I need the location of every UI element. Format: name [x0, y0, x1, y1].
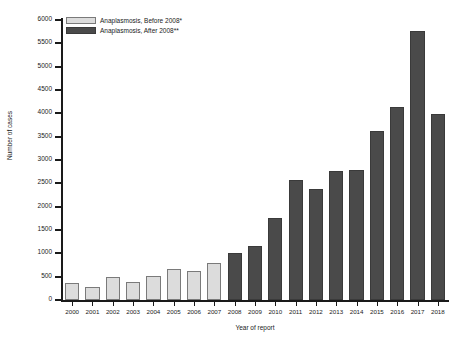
- x-axis-tick: [397, 302, 398, 306]
- legend-label: Anaplasmosis, After 2008**: [100, 27, 179, 34]
- x-axis-tick: [275, 302, 276, 306]
- y-axis-tick-label-text: 1500: [12, 226, 52, 233]
- x-axis-tick: [235, 302, 236, 306]
- y-axis-tick-label-text: 6000: [12, 16, 52, 23]
- y-axis-tick: [55, 42, 62, 44]
- y-axis-tick-label-text: 2500: [12, 179, 52, 186]
- bar-2010: [268, 218, 282, 300]
- y-axis-tick: [55, 136, 62, 138]
- bar-2007: [207, 263, 221, 300]
- y-axis-tick-label: 3500: [8, 133, 52, 140]
- y-axis-tick: [55, 112, 62, 114]
- y-axis-tick: [55, 252, 62, 254]
- x-axis-tick-label-2018: 2018: [423, 308, 453, 315]
- y-axis-tick: [55, 229, 62, 231]
- y-axis-tick-label-text: 1000: [12, 249, 52, 256]
- y-axis-tick-label: 6000: [8, 16, 52, 23]
- y-axis-tick: [55, 159, 62, 161]
- x-axis-tick: [113, 302, 114, 306]
- x-axis-tick: [357, 302, 358, 306]
- y-axis-tick: [55, 89, 62, 91]
- bar-2005: [167, 269, 181, 300]
- bar-2004: [146, 276, 160, 300]
- y-axis-tick-label: 1500: [8, 226, 52, 233]
- legend-item: Anaplasmosis, Before 2008*: [66, 16, 182, 24]
- x-axis-tick: [92, 302, 93, 306]
- x-axis-tick: [174, 302, 175, 306]
- y-axis-tick-label-text: 4000: [12, 109, 52, 116]
- x-axis-tick: [255, 302, 256, 306]
- y-axis-tick: [55, 182, 62, 184]
- x-axis-tick: [377, 302, 378, 306]
- bar-2001: [85, 287, 99, 300]
- plot-area: [62, 20, 448, 300]
- y-axis-tick-label-text: 3000: [12, 156, 52, 163]
- y-axis-tick-label-text: 4500: [12, 86, 52, 93]
- y-axis-tick-label: 0: [8, 296, 52, 303]
- y-axis-tick: [55, 299, 62, 301]
- x-axis-title: Year of report: [62, 324, 448, 331]
- bar-2008: [228, 253, 242, 300]
- y-axis-tick-label: 500: [8, 273, 52, 280]
- y-axis-tick-label-text: 3500: [12, 133, 52, 140]
- x-axis-tick: [438, 302, 439, 306]
- bar-2014: [349, 170, 363, 300]
- bar-2018: [431, 114, 445, 300]
- x-axis-tick: [133, 302, 134, 306]
- x-axis-tick: [296, 302, 297, 306]
- bar-2003: [126, 282, 140, 300]
- y-axis-tick-label-text: 500: [12, 273, 52, 280]
- bar-2006: [187, 271, 201, 300]
- bar-2002: [106, 277, 120, 300]
- y-axis-tick-label: 1000: [8, 249, 52, 256]
- x-axis-tick: [194, 302, 195, 306]
- y-axis-tick-label-text: 0: [12, 296, 52, 303]
- x-axis-tick: [153, 302, 154, 306]
- bar-group: [62, 20, 448, 300]
- x-axis-tick: [214, 302, 215, 306]
- bar-2016: [390, 107, 404, 300]
- x-axis-tick: [72, 302, 73, 306]
- bar-2011: [289, 180, 303, 300]
- bar-2009: [248, 246, 262, 300]
- x-axis-tick: [336, 302, 337, 306]
- y-axis-tick-label-text: 5500: [12, 39, 52, 46]
- bar-2017: [410, 31, 424, 300]
- bar-2000: [65, 283, 79, 300]
- legend-label: Anaplasmosis, Before 2008*: [100, 17, 182, 24]
- y-axis-tick: [55, 276, 62, 278]
- chart-legend: Anaplasmosis, Before 2008*Anaplasmosis, …: [66, 16, 182, 34]
- y-axis-tick: [55, 66, 62, 68]
- bar-2012: [309, 189, 323, 300]
- y-axis-tick-label: 3000: [8, 156, 52, 163]
- y-axis-tick: [55, 206, 62, 208]
- y-axis-tick-label: 5500: [8, 39, 52, 46]
- anaplasmosis-cases-bar-chart: Number of cases Year of report 050010001…: [0, 0, 466, 348]
- bar-2015: [370, 131, 384, 300]
- y-axis-tick-label: 2000: [8, 203, 52, 210]
- y-axis-tick-label: 2500: [8, 179, 52, 186]
- legend-swatch-before: [66, 17, 96, 24]
- y-axis-tick-label: 5000: [8, 63, 52, 70]
- y-axis-tick-label-text: 2000: [12, 203, 52, 210]
- y-axis-tick: [55, 19, 62, 21]
- y-axis-tick-label: 4500: [8, 86, 52, 93]
- y-axis-tick-label-text: 5000: [12, 63, 52, 70]
- y-axis-tick-label: 4000: [8, 109, 52, 116]
- bar-2013: [329, 171, 343, 300]
- x-axis-tick: [418, 302, 419, 306]
- legend-swatch-after: [66, 27, 96, 34]
- legend-item: Anaplasmosis, After 2008**: [66, 26, 182, 34]
- x-axis-tick: [316, 302, 317, 306]
